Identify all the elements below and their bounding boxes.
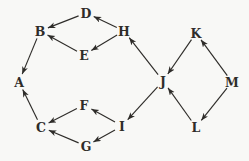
edge-F-C bbox=[49, 109, 77, 124]
node-K: K bbox=[191, 26, 203, 41]
node-F: F bbox=[80, 98, 89, 113]
edge-J-H bbox=[129, 38, 158, 75]
edge-K-J bbox=[168, 40, 192, 74]
node-I: I bbox=[119, 119, 125, 134]
node-M: M bbox=[225, 75, 239, 90]
edge-M-L bbox=[201, 88, 227, 120]
node-E: E bbox=[79, 48, 89, 63]
node-L: L bbox=[192, 120, 201, 135]
node-B: B bbox=[35, 24, 46, 39]
edge-H-E bbox=[91, 35, 117, 51]
edge-M-K bbox=[201, 40, 227, 76]
edge-L-J bbox=[168, 88, 191, 121]
edge-I-G bbox=[93, 130, 115, 142]
node-J: J bbox=[159, 74, 166, 89]
graph-svg: ABCDEFGHIJKLM bbox=[0, 0, 249, 161]
node-D: D bbox=[81, 6, 92, 21]
node-H: H bbox=[118, 24, 130, 39]
edge-B-A bbox=[22, 38, 37, 74]
graph-diagram: ABCDEFGHIJKLM bbox=[0, 0, 249, 161]
node-A: A bbox=[13, 75, 24, 90]
edge-C-A bbox=[23, 90, 38, 120]
node-G: G bbox=[81, 139, 92, 154]
edge-D-B bbox=[48, 16, 79, 28]
edge-I-F bbox=[91, 109, 115, 122]
edge-J-I bbox=[128, 87, 158, 120]
edge-H-D bbox=[94, 17, 117, 28]
edge-G-C bbox=[49, 130, 79, 143]
edge-E-B bbox=[48, 35, 78, 51]
node-C: C bbox=[36, 120, 46, 135]
node-layer: ABCDEFGHIJKLM bbox=[13, 6, 239, 154]
